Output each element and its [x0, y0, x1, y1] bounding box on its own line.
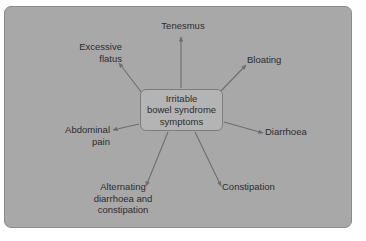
- node-label-bloating: Bloating: [247, 54, 317, 66]
- node-label-diarrhoea: Diarrhoea: [265, 126, 335, 138]
- node-label-abdominal-pain: Abdominal pain: [48, 124, 110, 147]
- arrow-to-diarrhoea: [224, 122, 263, 133]
- node-label-constipation: Constipation: [222, 181, 294, 193]
- arrow-to-constipation: [195, 132, 221, 186]
- arrow-to-abdominal-pain: [113, 124, 139, 130]
- node-label-excessive-flatus: Excessive flatus: [62, 41, 122, 64]
- arrow-to-bloating: [220, 65, 246, 92]
- node-label-tenesmus: Tenesmus: [148, 20, 218, 32]
- center-node-label: Irritable bowel syndrome symptoms: [147, 93, 216, 128]
- arrow-to-alternating: [146, 132, 168, 186]
- node-label-alternating-diarrhoea-and-constipation: Alternating diarrhoea and constipation: [84, 181, 162, 216]
- center-node-irritable-bowel-syndrome-symptoms: Irritable bowel syndrome symptoms: [140, 89, 223, 131]
- arrow-to-excessive-flatus: [119, 63, 142, 93]
- diagram-figure: Irritable bowel syndrome symptoms Tenesm…: [0, 0, 366, 241]
